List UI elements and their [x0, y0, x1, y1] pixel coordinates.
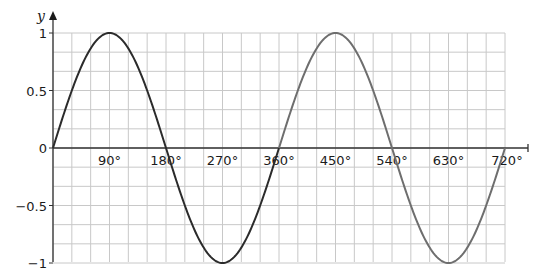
- x-tick-label: 720°: [491, 153, 522, 168]
- x-tick-label: 360°: [263, 153, 294, 168]
- x-tick-label: 90°: [98, 153, 121, 168]
- x-tick-label: 180°: [150, 153, 181, 168]
- y-tick-label: 0.5: [26, 84, 47, 99]
- y-tick-label: −1: [28, 256, 47, 271]
- x-tick-labels: 90°180°270°360°450°540°630°720°: [98, 153, 523, 168]
- x-tick-label: 540°: [376, 153, 407, 168]
- y-tick-labels: 10.50−0.5−1: [15, 26, 53, 271]
- y-tick-label: −0.5: [15, 199, 47, 214]
- y-tick-label: 0: [39, 141, 47, 156]
- y-tick-label: 1: [39, 26, 47, 41]
- x-tick-label: 270°: [207, 153, 238, 168]
- sine-chart: y 90°180°270°360°450°540°630°720° 10.50−…: [0, 0, 547, 277]
- y-axis-label: y: [36, 8, 46, 24]
- x-tick-label: 630°: [433, 153, 464, 168]
- y-axis-arrow-icon: [49, 11, 57, 20]
- x-tick-label: 450°: [320, 153, 351, 168]
